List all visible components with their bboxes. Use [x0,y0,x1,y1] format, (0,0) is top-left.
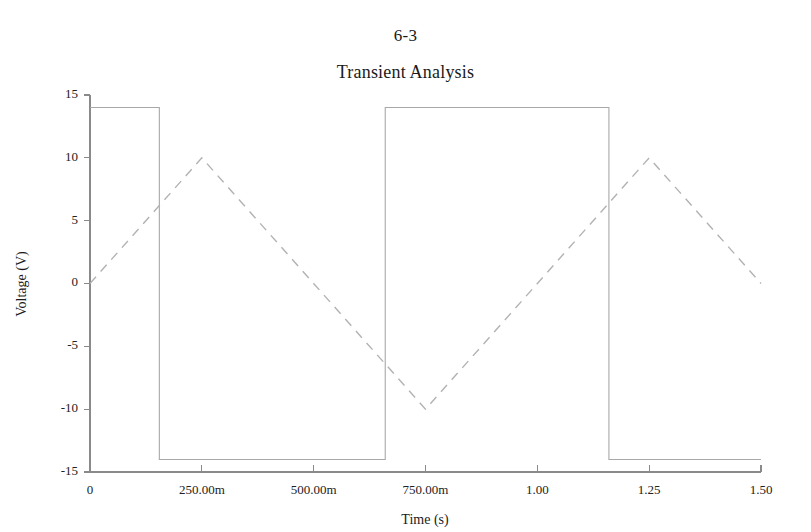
transient-analysis-plot: 151050-5-10-15 0250.00m500.00m750.00m1.0… [0,0,811,532]
series-triangle-wave [90,158,761,409]
series-square-wave [90,108,761,460]
plot-svg: 151050-5-10-15 0250.00m500.00m750.00m1.0… [0,0,811,532]
y-tick-label: 15 [65,86,78,101]
y-axis-title: Voltage (V) [14,251,30,317]
data-series-layer [90,108,761,460]
y-tick-label: -10 [61,400,78,415]
y-tick-label: 5 [72,212,79,227]
x-tick-label: 0 [87,482,94,497]
x-tick-label: 750.00m [403,482,449,497]
y-axis-ticks: 151050-5-10-15 [61,86,90,478]
x-axis-title: Time (s) [401,512,449,528]
y-tick-label: -5 [67,337,78,352]
x-tick-label: 1.00 [526,482,549,497]
y-tick-label: -15 [61,463,78,478]
x-tick-label: 250.00m [179,482,225,497]
y-tick-label: 0 [72,274,79,289]
x-tick-label: 500.00m [291,482,337,497]
page-root: 6-3 Transient Analysis 151050-5-10-15 02… [0,0,811,532]
x-tick-label: 1.50 [750,482,773,497]
x-tick-label: 1.25 [638,482,661,497]
y-tick-label: 10 [65,149,78,164]
x-axis-ticks: 0250.00m500.00m750.00m1.001.251.50 [87,465,773,497]
